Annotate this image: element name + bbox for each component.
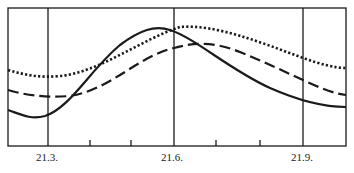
x-tick-label-21-9: 21.9. <box>291 151 313 163</box>
x-tick-label-21-3: 21.3. <box>36 151 58 163</box>
x-tick-label-21-6: 21.6. <box>161 151 183 163</box>
minor-ticks <box>90 140 260 146</box>
series-dashed <box>8 44 346 97</box>
series-dotted <box>8 27 346 77</box>
series-solid <box>8 28 346 117</box>
line-chart: 21.3. 21.6. 21.9. <box>0 0 354 173</box>
